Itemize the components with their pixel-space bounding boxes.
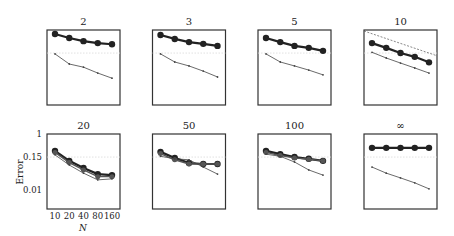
panel-4: 10 xyxy=(364,16,437,105)
data-point xyxy=(160,155,162,157)
panel-7: 100 xyxy=(258,120,331,209)
data-point xyxy=(371,51,373,53)
series-line-thin xyxy=(266,54,323,75)
panel-title: ∞ xyxy=(396,120,404,131)
data-point xyxy=(95,40,101,46)
data-point xyxy=(320,48,326,54)
data-point xyxy=(54,154,56,156)
data-point xyxy=(306,45,312,51)
data-point xyxy=(279,61,281,63)
data-point xyxy=(217,173,219,175)
data-point xyxy=(383,45,389,51)
data-point xyxy=(111,178,113,180)
panel-title: 3 xyxy=(186,16,192,27)
small-multiples-figure: 235102010.150.011020408016050100∞ Error … xyxy=(0,0,454,236)
data-point xyxy=(174,158,176,160)
x-tick-label: 160 xyxy=(104,211,120,221)
data-point xyxy=(400,177,402,179)
panel-frame xyxy=(258,134,331,209)
data-point xyxy=(188,159,190,161)
data-point xyxy=(414,67,416,69)
data-point xyxy=(426,145,432,151)
axis-labels: Error N xyxy=(15,159,88,233)
y-tick-label: 1 xyxy=(37,129,42,139)
data-point xyxy=(174,61,176,63)
y-tick-label: 0.15 xyxy=(23,152,42,162)
data-point xyxy=(426,59,432,65)
data-point xyxy=(400,62,402,64)
data-point xyxy=(322,174,324,176)
data-point xyxy=(214,43,220,49)
data-point xyxy=(95,174,100,179)
panel-title: 2 xyxy=(80,16,86,27)
panel-title: 20 xyxy=(77,120,90,131)
panel-title: 5 xyxy=(291,16,297,27)
panel-frame xyxy=(364,30,437,105)
panel-3: 5 xyxy=(258,16,331,105)
panel-title: 50 xyxy=(183,120,196,131)
data-point xyxy=(52,31,58,37)
data-point xyxy=(215,161,220,166)
data-point xyxy=(157,32,163,38)
panel-6: 50 xyxy=(153,120,226,209)
x-tick-label: 40 xyxy=(78,211,89,221)
data-point xyxy=(308,169,310,171)
data-point xyxy=(80,38,86,44)
data-point xyxy=(397,50,403,56)
data-point xyxy=(412,54,418,60)
data-point xyxy=(97,72,99,74)
panel-5: 2010.150.0110204080160 xyxy=(23,120,120,221)
data-point xyxy=(172,36,178,42)
data-point xyxy=(186,39,192,45)
data-point xyxy=(277,39,283,45)
data-point xyxy=(200,41,206,47)
panel-1: 2 xyxy=(47,16,120,105)
series-line-thin xyxy=(55,54,112,78)
data-point xyxy=(371,166,373,168)
data-point xyxy=(294,65,296,67)
panel-title: 100 xyxy=(285,120,304,131)
data-point xyxy=(397,145,403,151)
x-tick-label: 20 xyxy=(64,211,75,221)
data-point xyxy=(158,151,163,156)
data-point xyxy=(265,53,267,55)
data-point xyxy=(66,35,72,41)
data-point xyxy=(83,172,85,174)
data-point xyxy=(428,188,430,190)
data-point xyxy=(294,161,296,163)
data-point xyxy=(54,53,56,55)
data-point xyxy=(83,66,85,68)
data-point xyxy=(412,145,418,151)
data-point xyxy=(217,76,219,78)
data-point xyxy=(187,161,192,166)
data-point xyxy=(292,155,297,160)
panels-group: 235102010.150.011020408016050100∞ xyxy=(23,16,437,221)
data-point xyxy=(385,172,387,174)
data-point xyxy=(97,179,99,181)
panel-frame xyxy=(153,134,226,209)
data-point xyxy=(306,157,311,162)
panel-title: 10 xyxy=(394,16,407,27)
data-point xyxy=(321,158,326,163)
data-point xyxy=(265,153,267,155)
data-point xyxy=(263,35,269,41)
panel-8: ∞ xyxy=(364,120,437,209)
x-tick-label: 80 xyxy=(92,211,103,221)
data-point xyxy=(385,57,387,59)
data-point xyxy=(160,53,162,55)
data-point xyxy=(369,40,375,46)
data-point xyxy=(68,164,70,166)
data-point xyxy=(428,72,430,74)
x-tick-label: 10 xyxy=(50,211,61,221)
data-point xyxy=(279,155,281,157)
data-point xyxy=(291,43,297,49)
data-point xyxy=(68,63,70,65)
data-point xyxy=(109,41,115,47)
data-point xyxy=(369,145,375,151)
x-axis-label: N xyxy=(78,223,88,233)
y-axis-label: Error xyxy=(15,159,25,185)
panel-frame xyxy=(258,30,331,105)
data-point xyxy=(202,70,204,72)
data-point xyxy=(308,69,310,71)
data-point xyxy=(414,182,416,184)
